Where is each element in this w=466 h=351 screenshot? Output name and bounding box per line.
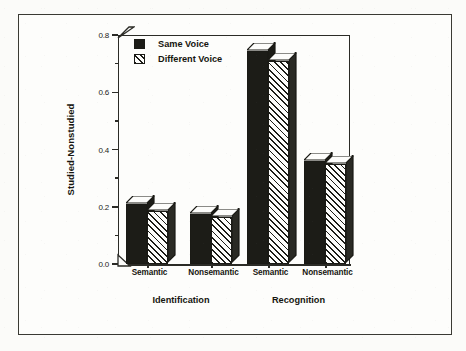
y-axis-title: Studied-Nonstudied bbox=[63, 35, 77, 264]
bar bbox=[325, 164, 346, 264]
y-tick-label: 0.4 bbox=[98, 145, 109, 154]
group-label: Recognition bbox=[272, 295, 325, 305]
legend-label-different-voice: Different Voice bbox=[158, 54, 222, 64]
y-tick-label: 0.6 bbox=[98, 88, 109, 97]
bar-front-face bbox=[190, 214, 211, 264]
bar bbox=[211, 217, 232, 264]
y-tick-major bbox=[112, 149, 118, 151]
solid-black-swatch-icon bbox=[134, 39, 145, 49]
y-tick-minor bbox=[115, 63, 119, 65]
legend-label-same-voice: Same Voice bbox=[158, 39, 209, 49]
y-tick-minor bbox=[115, 177, 119, 179]
y-tick-minor bbox=[115, 235, 119, 237]
y-tick-major bbox=[112, 263, 118, 265]
bar bbox=[247, 51, 268, 264]
y-tick-major bbox=[112, 92, 118, 94]
bar-front-face bbox=[325, 164, 346, 264]
bar-front-face bbox=[247, 51, 268, 264]
bar-front-face bbox=[268, 61, 289, 264]
bar-side-face bbox=[289, 52, 298, 264]
y-tick-label: 0.2 bbox=[98, 202, 109, 211]
plot-area: 0.80.60.40.20.0 bbox=[118, 35, 350, 264]
bar bbox=[147, 211, 168, 264]
y-tick-major bbox=[112, 34, 118, 36]
figure-page: Studied-Nonstudied 0.80.60.40.20.0 Same … bbox=[0, 0, 466, 351]
y-tick-major bbox=[112, 206, 118, 208]
bar bbox=[304, 161, 325, 264]
y-tick-minor bbox=[115, 120, 119, 122]
legend-item-different-voice: Different Voice bbox=[134, 53, 222, 65]
legend-item-same-voice: Same Voice bbox=[134, 38, 222, 50]
bar-front-face bbox=[304, 161, 325, 264]
bar bbox=[190, 214, 211, 264]
y-tick-label: 0.8 bbox=[98, 31, 109, 40]
legend: Same Voice Different Voice bbox=[134, 38, 222, 68]
category-label: Semantic bbox=[253, 268, 289, 277]
category-label: Nonsemantic bbox=[188, 268, 238, 277]
category-label: Semantic bbox=[132, 268, 168, 277]
bar-side-face bbox=[346, 155, 355, 264]
y-axis-title-label: Studied-Nonstudied bbox=[65, 103, 76, 195]
hatched-swatch-icon bbox=[134, 54, 145, 64]
bar-front-face bbox=[147, 211, 168, 264]
bar-front-face bbox=[126, 204, 147, 264]
category-label: Nonsemantic bbox=[302, 268, 352, 277]
y-tick-label: 0.0 bbox=[98, 260, 109, 269]
group-label: Identification bbox=[152, 295, 209, 305]
bar-front-face bbox=[211, 217, 232, 264]
x-axis-baseline bbox=[118, 264, 351, 266]
bar bbox=[126, 204, 147, 264]
bar bbox=[268, 61, 289, 264]
